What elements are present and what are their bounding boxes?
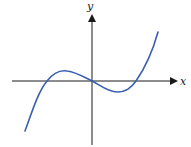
x-axis-label: x (180, 75, 187, 88)
y-axis-label: y (86, 0, 94, 13)
cubic-graph: x y (0, 0, 191, 147)
